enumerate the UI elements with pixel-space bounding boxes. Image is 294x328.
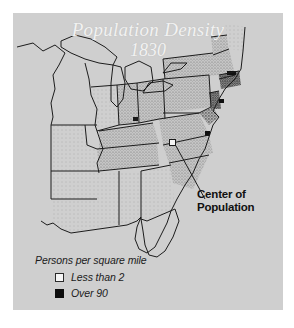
legend-item-high: Over 90 <box>55 287 215 299</box>
center-of-population-label-line1: Center of <box>197 188 281 201</box>
center-of-population-marker <box>169 139 176 146</box>
legend: Persons per square mile Less than 2 Over… <box>35 254 215 303</box>
legend-item-low: Less than 2 <box>55 271 215 283</box>
legend-swatch-high-icon <box>55 289 64 298</box>
population-density-map-figure: Population Density 1830 Center of Popula… <box>0 0 294 328</box>
center-of-population-label-line2: Population <box>197 201 281 214</box>
map-panel: Population Density 1830 Center of Popula… <box>13 13 283 310</box>
legend-swatch-low-icon <box>55 273 64 282</box>
legend-title: Persons per square mile <box>35 254 215 266</box>
center-of-population-label: Center of Population <box>197 188 281 214</box>
legend-label-low: Less than 2 <box>71 271 124 283</box>
legend-label-high: Over 90 <box>71 287 108 299</box>
